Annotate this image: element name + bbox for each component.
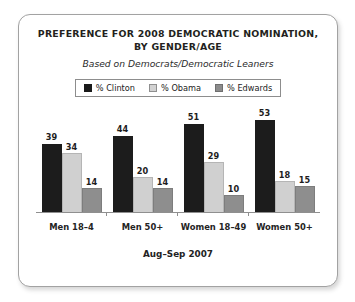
bar-edwards: 10 <box>224 195 244 212</box>
bar-clinton: 44 <box>113 136 133 212</box>
chart-title-line-2: BY GENDER/AGE <box>19 41 337 54</box>
bar-clinton: 51 <box>184 124 204 212</box>
legend-label-clinton: % Clinton <box>96 83 135 93</box>
plot-area: 393414442014512910531815 <box>36 109 320 213</box>
bar-obama: 18 <box>275 181 295 212</box>
bar-value-label: 10 <box>228 184 239 194</box>
bar-obama: 20 <box>133 177 153 212</box>
bar-value-label: 14 <box>157 177 168 187</box>
chart-footer: Aug–Sep 2007 <box>19 249 337 259</box>
bar-edwards: 14 <box>153 188 173 212</box>
bar-clinton: 39 <box>42 144 62 212</box>
edwards-swatch-icon <box>215 84 223 92</box>
chart-title-block: PREFERENCE FOR 2008 DEMOCRATIC NOMINATIO… <box>19 15 337 69</box>
legend-item-edwards: % Edwards <box>215 83 272 93</box>
bar-groups: 393414442014512910531815 <box>36 109 320 212</box>
bar-clinton: 53 <box>255 120 275 212</box>
category-label: Men 18–4 <box>36 222 107 232</box>
bar-group: 393414 <box>36 109 107 212</box>
bar-value-label: 53 <box>259 108 270 118</box>
bar-value-label: 39 <box>46 132 57 142</box>
bar-value-label: 44 <box>117 124 128 134</box>
chart-title-line-1: PREFERENCE FOR 2008 DEMOCRATIC NOMINATIO… <box>19 28 337 41</box>
category-label: Women 18–49 <box>178 222 249 232</box>
bar-group: 442014 <box>107 109 178 212</box>
bar-value-label: 20 <box>137 166 148 176</box>
clinton-swatch-icon <box>84 84 92 92</box>
legend-label-edwards: % Edwards <box>227 83 272 93</box>
bar-value-label: 18 <box>279 170 290 180</box>
bar-edwards: 15 <box>295 186 315 212</box>
chart-subtitle: Based on Democrats/Democratic Leaners <box>19 58 337 69</box>
bar-value-label: 15 <box>299 175 310 185</box>
bar-group: 512910 <box>178 109 249 212</box>
legend-item-clinton: % Clinton <box>84 83 135 93</box>
legend-label-obama: % Obama <box>161 83 201 93</box>
legend-box: % Clinton % Obama % Edwards <box>75 79 281 97</box>
bar-value-label: 51 <box>188 112 199 122</box>
obama-swatch-icon <box>149 84 157 92</box>
category-label: Men 50+ <box>107 222 178 232</box>
bar-value-label: 29 <box>208 151 219 161</box>
legend-item-obama: % Obama <box>149 83 201 93</box>
legend: % Clinton % Obama % Edwards <box>19 79 337 97</box>
category-labels: Men 18–4Men 50+Women 18–49Women 50+ <box>36 222 320 232</box>
bar-value-label: 34 <box>66 142 77 152</box>
bar-value-label: 14 <box>86 177 97 187</box>
x-axis-line <box>36 212 320 213</box>
bar-obama: 34 <box>62 153 82 212</box>
category-label: Women 50+ <box>249 222 320 232</box>
bar-edwards: 14 <box>82 188 102 212</box>
bar-obama: 29 <box>204 162 224 212</box>
bar-group: 531815 <box>249 109 320 212</box>
chart-card: PREFERENCE FOR 2008 DEMOCRATIC NOMINATIO… <box>18 14 338 287</box>
